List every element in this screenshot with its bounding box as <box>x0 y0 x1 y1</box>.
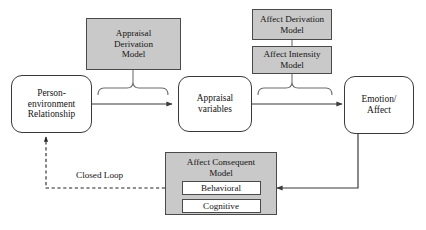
node-affect-derivation-model[interactable]: Affect Derivation Model <box>252 9 332 40</box>
arrow-emotion-to-consequent <box>277 134 358 188</box>
node-line: variables <box>198 104 232 115</box>
node-affect-intensity-model[interactable]: Affect Intensity Model <box>252 46 332 74</box>
node-person-environment-relationship[interactable]: Person- environment Relationship <box>11 75 92 133</box>
node-emotion-affect[interactable]: Emotion/ Affect <box>344 76 414 134</box>
brace-appraisal-derivation <box>98 82 168 95</box>
sub-node-behavioral[interactable]: Behavioral <box>182 181 261 195</box>
node-appraisal-variables[interactable]: Appraisal variables <box>178 76 252 132</box>
node-line: Derivation <box>114 39 153 50</box>
sub-node-label: Cognitive <box>203 201 239 212</box>
node-line: Affect Derivation <box>260 14 324 25</box>
node-line: Emotion/ <box>362 94 397 105</box>
node-affect-consequent-model[interactable]: Affect Consequent Model Behavioral Cogni… <box>165 152 277 215</box>
node-line: Affect Consequent <box>187 157 255 168</box>
node-line: Affect <box>367 105 391 116</box>
edge-label-closed-loop: Closed Loop <box>76 170 123 180</box>
node-line: Model <box>122 49 146 60</box>
sub-node-cognitive[interactable]: Cognitive <box>182 199 261 213</box>
appraisal-affect-diagram: Appraisal Derivation Model Affect Deriva… <box>0 0 426 230</box>
node-line: environment <box>28 99 75 110</box>
node-line: Appraisal <box>116 28 151 39</box>
sub-node-label: Behavioral <box>201 183 241 194</box>
node-line: Relationship <box>28 109 75 120</box>
closed-loop-dashed-arrow <box>46 137 165 188</box>
node-line: Person- <box>37 88 66 99</box>
node-appraisal-derivation-model[interactable]: Appraisal Derivation Model <box>86 18 181 70</box>
node-line: Model <box>280 25 304 36</box>
node-line: Affect Intensity <box>263 49 320 60</box>
node-line: Model <box>209 168 233 179</box>
node-line: Model <box>280 60 304 71</box>
node-line: Appraisal <box>197 93 233 104</box>
brace-affect-models <box>258 82 332 95</box>
